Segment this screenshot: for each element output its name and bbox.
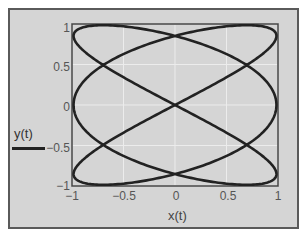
x-tick: 0: [173, 189, 180, 203]
y-tick: 0: [63, 100, 70, 114]
x-tick: −1: [65, 189, 79, 203]
y-tick: 1: [63, 21, 70, 35]
x-axis-label: x(t): [168, 208, 187, 223]
x-tick: 1: [275, 189, 282, 203]
x-tick: 0.5: [220, 189, 237, 203]
legend-line-swatch: [12, 147, 45, 150]
x-tick: −0.5: [112, 189, 136, 203]
legend-label: y(t): [14, 126, 33, 141]
y-tick: −0.5: [46, 141, 70, 155]
y-tick: 0.5: [53, 60, 70, 74]
plot-area: [0, 0, 301, 239]
